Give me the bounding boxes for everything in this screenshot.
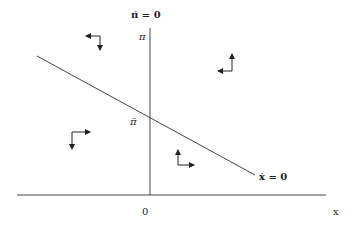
x-dot-zero-label: ẋ = 0 — [259, 171, 287, 182]
origin-label: 0 — [142, 206, 148, 217]
arrows-upper-right-icon — [218, 54, 232, 71]
x-axis-label: x — [333, 206, 339, 217]
x-dot-zero-locus — [37, 56, 255, 175]
pi-bar-label: π̄ — [129, 116, 137, 127]
pi-axis-label: π — [138, 31, 146, 42]
pi-dot-zero-label: π̇ = 0 — [131, 9, 161, 20]
arrows-lower-left-icon — [72, 132, 90, 149]
arrows-upper-left-icon — [86, 36, 100, 50]
phase-diagram: π̇ = 0 π π̄ ẋ = 0 0 x — [0, 0, 355, 230]
arrows-lower-right-icon — [178, 150, 194, 165]
